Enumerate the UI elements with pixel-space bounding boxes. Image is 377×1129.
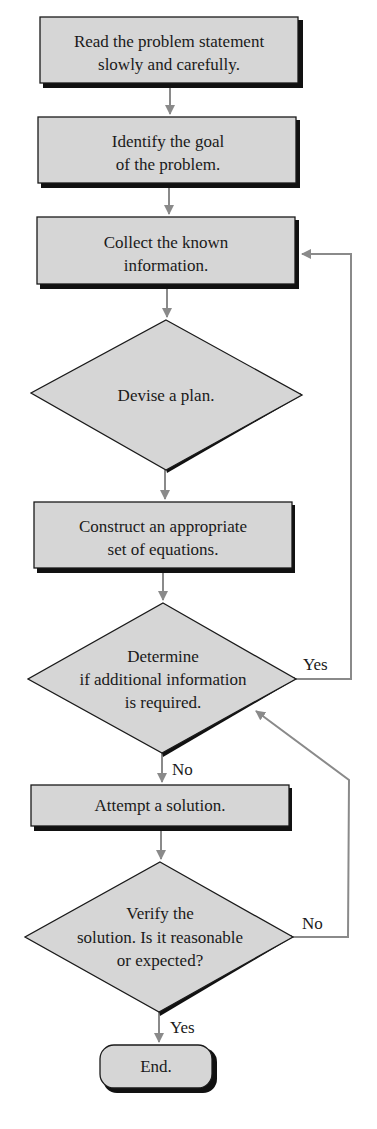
flowchart: Read the problem statement slowly and ca… <box>0 0 377 1129</box>
terminal-end: End. <box>100 1045 217 1093</box>
node-text-line: Read the problem statement <box>74 32 265 51</box>
node-text-line: Identify the goal <box>112 132 225 151</box>
node-text-line: Attempt a solution. <box>95 796 226 815</box>
edge-label-yes: Yes <box>303 655 328 674</box>
node-text-line: Verify the <box>126 904 194 923</box>
node-text-line: set of equations. <box>108 540 219 559</box>
process-collect-info: Collect the known information. <box>37 217 299 289</box>
process-construct-equations: Construct an appropriate set of equation… <box>34 502 295 573</box>
decision-devise-plan: Devise a plan. <box>31 320 302 473</box>
edge-label-no: No <box>172 760 193 779</box>
process-read-problem: Read the problem statement slowly and ca… <box>40 17 303 88</box>
node-text-line: solution. Is it reasonable <box>77 928 243 947</box>
process-attempt-solution: Attempt a solution. <box>31 785 292 831</box>
node-text-line: Collect the known <box>104 233 229 252</box>
node-text-line: Construct an appropriate <box>79 517 247 536</box>
decision-verify-solution: Verify the solution. Is it reasonable or… <box>25 862 293 1016</box>
node-text-line: is required. <box>125 693 201 712</box>
node-text-line: End. <box>140 1057 172 1076</box>
edge-label-yes: Yes <box>170 1018 195 1037</box>
node-text-line: if additional information <box>79 670 247 689</box>
process-identify-goal: Identify the goal of the problem. <box>38 117 300 188</box>
decision-determine-additional-info: Determine if additional information is r… <box>28 603 296 757</box>
arrow-determine-yes-to-collect <box>296 254 351 679</box>
node-text-line: Devise a plan. <box>118 386 215 405</box>
edge-label-no: No <box>302 914 323 933</box>
node-text-line: information. <box>124 256 209 275</box>
node-text-line: slowly and carefully. <box>98 55 240 74</box>
node-text-line: Determine <box>127 647 199 666</box>
node-text-line: or expected? <box>117 951 203 970</box>
node-text-line: of the problem. <box>116 155 220 174</box>
